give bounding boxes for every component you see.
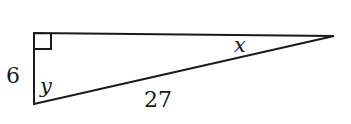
left-leg-label: 6	[6, 63, 20, 88]
right-angle-marker	[34, 33, 51, 49]
angle-x-label: x	[234, 33, 246, 57]
triangle-diagram: 6 y 27 x	[0, 0, 351, 124]
hypotenuse-label: 27	[144, 87, 172, 112]
right-triangle	[34, 33, 334, 104]
angle-y-label: y	[39, 74, 53, 98]
